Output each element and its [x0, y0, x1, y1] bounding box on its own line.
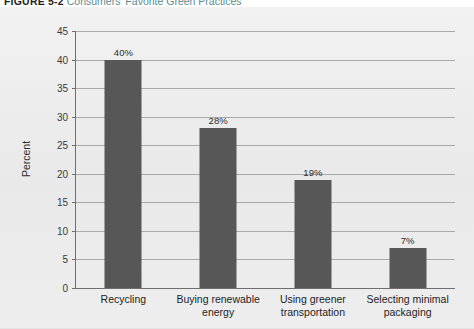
bar[interactable]: [294, 180, 331, 289]
bar-value-label: 40%: [114, 47, 133, 58]
y-axis-tick-label: 5: [62, 254, 68, 265]
category-label: Using greener transportation: [267, 293, 359, 318]
y-axis-title: Percent: [20, 141, 32, 177]
chart-frame: Percent 051015202530354045 40%28%19%7% R…: [0, 7, 474, 329]
y-axis-tick-label: 25: [57, 140, 68, 151]
bar-value-label: 19%: [303, 167, 322, 178]
y-axis-tick-label: 40: [57, 54, 68, 65]
y-axis-tick-label: 45: [57, 26, 68, 37]
bar-slot: 40%: [76, 31, 171, 288]
figure-title: Consumers' Favorite Green Practices: [67, 0, 242, 7]
y-axis-tick-label: 20: [57, 168, 68, 179]
y-axis-tick-label: 30: [57, 111, 68, 122]
x-axis-line: [76, 288, 455, 289]
bar[interactable]: [105, 60, 142, 288]
bar-slot: 19%: [266, 31, 361, 288]
bar-slot: 28%: [171, 31, 266, 288]
category-label: Recycling: [77, 293, 169, 306]
y-axis-tick-label: 15: [57, 197, 68, 208]
category-label: Selecting minimal packaging: [362, 293, 454, 318]
bar-value-label: 28%: [209, 115, 228, 126]
y-axis-tick-label: 35: [57, 83, 68, 94]
bar-value-label: 7%: [401, 235, 415, 246]
bar[interactable]: [389, 248, 426, 288]
bar-slot: 7%: [360, 31, 455, 288]
tick-mark: [72, 288, 76, 289]
figure-number: FIGURE 5-2: [4, 0, 64, 7]
plot-area: 051015202530354045 40%28%19%7% Recycling…: [76, 31, 455, 288]
y-axis-tick-label: 0: [62, 283, 68, 294]
y-axis-tick-label: 10: [57, 225, 68, 236]
bar[interactable]: [200, 128, 237, 288]
category-label: Buying renewable energy: [172, 293, 264, 318]
